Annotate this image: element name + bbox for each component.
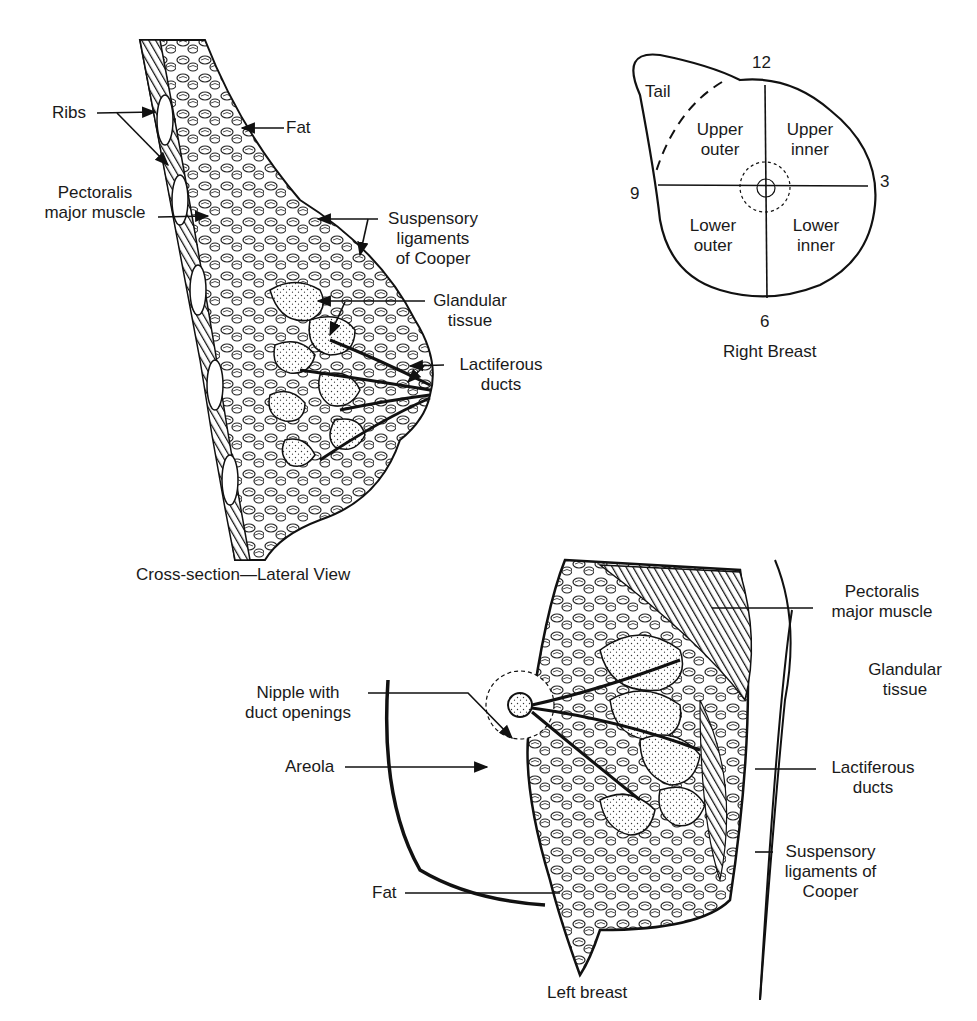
label-ribs: Ribs xyxy=(52,103,86,123)
caption-lateral-view: Cross-section—Lateral View xyxy=(136,565,350,585)
label-areola: Areola xyxy=(285,757,334,777)
frontal-view xyxy=(345,560,816,1000)
label-nipple: Nipple with duct openings xyxy=(228,683,368,723)
region-upper-outer: Upper outer xyxy=(685,120,755,160)
label-suspensory-frontal: Suspensory ligaments of Cooper xyxy=(773,842,888,902)
region-tail: Tail xyxy=(645,82,671,102)
label-pectoralis-lateral: Pectoralis major muscle xyxy=(30,183,160,223)
label-glandular-lateral: Glandular tissue xyxy=(420,291,520,331)
clock-12: 12 xyxy=(752,53,771,73)
label-lactiferous-lateral: Lactiferous ducts xyxy=(446,355,556,395)
clock-3: 3 xyxy=(880,172,889,192)
label-pectoralis-frontal: Pectoralis major muscle xyxy=(812,582,952,622)
label-suspensory-lateral: Suspensory ligaments of Cooper xyxy=(378,209,488,269)
label-lactiferous-frontal: Lactiferous ducts xyxy=(818,758,928,798)
clock-6: 6 xyxy=(760,312,769,332)
caption-left-breast: Left breast xyxy=(547,983,627,1003)
region-lower-inner: Lower inner xyxy=(781,216,851,256)
label-fat-lateral: Fat xyxy=(286,118,311,138)
label-glandular-frontal: Glandular tissue xyxy=(855,660,955,700)
label-fat-frontal: Fat xyxy=(372,883,397,903)
lateral-cross-section xyxy=(97,40,444,560)
region-lower-outer: Lower outer xyxy=(678,216,748,256)
region-upper-inner: Upper inner xyxy=(775,120,845,160)
caption-right-breast: Right Breast xyxy=(723,342,817,362)
clock-9: 9 xyxy=(630,184,639,204)
